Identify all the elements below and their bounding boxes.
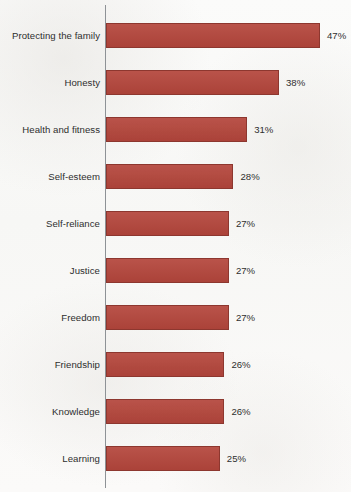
bar: [106, 70, 279, 95]
bar-chart: Protecting the family47%Honesty38%Health…: [0, 0, 351, 492]
bar: [106, 164, 233, 189]
bar-row: Health and fitness31%: [0, 117, 351, 142]
bar: [106, 211, 229, 236]
bar-row: Protecting the family47%: [0, 23, 351, 48]
bar-value-label: 27%: [236, 211, 255, 236]
bar-category-label: Self-esteem: [0, 164, 100, 189]
bar-row: Justice27%: [0, 258, 351, 283]
bar-row: Knowledge26%: [0, 399, 351, 424]
bar-category-label: Justice: [0, 258, 100, 283]
bar: [106, 23, 320, 48]
bar-row: Self-esteem28%: [0, 164, 351, 189]
bar-value-label: 31%: [254, 117, 273, 142]
bar-category-label: Learning: [0, 446, 100, 471]
bar-value-label: 25%: [227, 446, 246, 471]
bar: [106, 446, 220, 471]
bar-row: Freedom27%: [0, 305, 351, 330]
bar-row: Friendship26%: [0, 352, 351, 377]
bar: [106, 117, 247, 142]
bar-category-label: Knowledge: [0, 399, 100, 424]
bar-value-label: 27%: [236, 305, 255, 330]
bar-category-label: Honesty: [0, 70, 100, 95]
bar: [106, 399, 224, 424]
bar-row: Self-reliance27%: [0, 211, 351, 236]
bar-value-label: 26%: [231, 399, 250, 424]
bar-value-label: 38%: [286, 70, 305, 95]
bar-category-label: Freedom: [0, 305, 100, 330]
bar-value-label: 28%: [240, 164, 259, 189]
bar: [106, 258, 229, 283]
bar-value-label: 47%: [327, 23, 346, 48]
bar: [106, 352, 224, 377]
bar-value-label: 27%: [236, 258, 255, 283]
bar-category-label: Self-reliance: [0, 211, 100, 236]
bar-row: Honesty38%: [0, 70, 351, 95]
bar-category-label: Protecting the family: [0, 23, 100, 48]
bar-category-label: Friendship: [0, 352, 100, 377]
bar-row: Learning25%: [0, 446, 351, 471]
bar-value-label: 26%: [231, 352, 250, 377]
bar-category-label: Health and fitness: [0, 117, 100, 142]
bar: [106, 305, 229, 330]
